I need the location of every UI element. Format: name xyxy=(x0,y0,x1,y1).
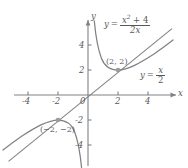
curve-eq-num-rest: + 4 xyxy=(133,15,148,25)
point-label-local-minimum: (2, 2) xyxy=(106,58,128,66)
y-tick-label-2: 2 xyxy=(79,66,84,75)
asymptote-eq-numerator: x xyxy=(156,66,165,75)
curve-eq-numerator: x2 + 4 xyxy=(120,14,150,25)
y-tick-label-4: 4 xyxy=(79,41,84,50)
asymptote-eq-denominator: 2 xyxy=(156,76,165,85)
point-label-local-maximum: (−2, −2) xyxy=(40,126,75,134)
curve-equation-label: y = x2 + 4 2x xyxy=(104,14,150,35)
graph-figure: x y 0 -4 -2 2 4 4 2 -2 -4 (2, 2) (−2, −2… xyxy=(0,0,188,168)
point-marker-local-maximum xyxy=(56,118,61,123)
x-tick-label-minus2: -2 xyxy=(52,97,60,106)
asymptote-eq-equals: = xyxy=(147,71,154,80)
y-tick-label-minus2: -2 xyxy=(75,116,83,125)
y-tick-label-minus4: -4 xyxy=(75,141,83,150)
curve-eq-equals: = xyxy=(111,20,118,29)
curve-eq-lhs: y xyxy=(104,20,109,29)
curve-eq-num-exponent: 2 xyxy=(127,14,131,20)
asymptote-equation-label: y = x 2 xyxy=(140,66,165,85)
x-tick-label-4: 4 xyxy=(145,97,150,106)
curve-eq-denominator: 2x xyxy=(128,26,142,35)
x-axis xyxy=(14,92,176,98)
y-axis xyxy=(86,20,92,166)
asymptote-eq-lhs: y xyxy=(140,71,145,80)
x-axis-label: x xyxy=(178,89,183,98)
asymptote-eq-fraction: x 2 xyxy=(156,66,165,85)
x-tick-label-2: 2 xyxy=(115,97,120,106)
origin-label: 0 xyxy=(80,97,85,106)
point-marker-local-minimum xyxy=(116,68,121,73)
y-axis-label: y xyxy=(91,12,96,21)
x-tick-label-minus4: -4 xyxy=(22,97,30,106)
curve-eq-fraction: x2 + 4 2x xyxy=(120,14,150,35)
